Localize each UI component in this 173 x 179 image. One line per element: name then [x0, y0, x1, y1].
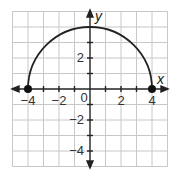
x-tick-m4: −4 — [21, 93, 36, 108]
endpoint-right — [148, 85, 156, 93]
x-tick-2: 2 — [117, 93, 124, 108]
x-tick-4: 4 — [148, 93, 155, 108]
arrow-left-icon — [12, 86, 19, 92]
x-axis-label: x — [156, 71, 165, 87]
y-tick-m4: −4 — [69, 143, 84, 158]
x-tick-0: 0 — [80, 90, 87, 105]
y-tick-2: 2 — [77, 50, 84, 65]
x-tick-m2: −2 — [52, 93, 67, 108]
y-axis-label: y — [94, 8, 103, 24]
endpoint-left — [24, 85, 32, 93]
semicircle-graph: y x −4 −2 0 2 4 2 −2 −4 — [0, 0, 173, 179]
y-tick-m2: −2 — [69, 112, 84, 127]
